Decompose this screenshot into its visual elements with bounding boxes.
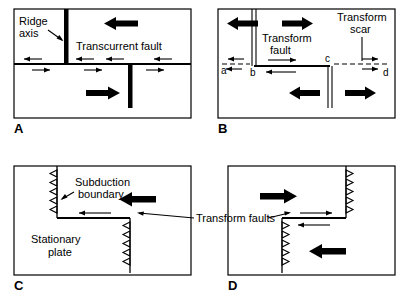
panel-c-stationary-plate-label-line2: plate (48, 246, 72, 258)
panel-a-ridge-axis-label-line1: Ridge (19, 15, 48, 27)
panel-c: Subduction boundary Stationary plate C (14, 166, 191, 293)
plate-tectonics-diagram: Ridge axis Transcurrent fault A (0, 0, 408, 303)
panel-b-point-label-c: c (325, 53, 330, 64)
panel-b: a b c d Transform fault Transform scar B (218, 9, 395, 136)
panel-d-id: D (228, 278, 237, 293)
panel-b-transform-fault-label-line1: Transform (262, 32, 312, 44)
transform-faults-label: Transform faults (196, 212, 276, 224)
panel-a-transcurrent-fault-label: Transcurrent fault (76, 40, 162, 52)
panel-a-ridge-axis-upper (64, 9, 69, 64)
panel-a: Ridge axis Transcurrent fault A (14, 9, 191, 136)
panel-c-subduction-boundary-label-line2: boundary (78, 188, 124, 200)
panel-b-point-label-a: a (221, 65, 227, 76)
panel-c-stationary-plate-label-line1: Stationary (31, 233, 81, 245)
panel-b-id: B (218, 121, 227, 136)
panel-b-transform-scar-label-line2: scar (350, 23, 371, 35)
figure-container: Ridge axis Transcurrent fault A (0, 0, 408, 303)
panel-b-transform-scar-label-line1: Transform (337, 11, 387, 23)
panel-b-point-label-b: b (250, 67, 256, 78)
panel-a-ridge-axis-lower (128, 64, 133, 108)
panel-b-transform-fault-label-line2: fault (270, 44, 291, 56)
panel-b-point-label-d: d (383, 67, 389, 78)
panel-c-id: C (14, 278, 24, 293)
panel-c-subduction-boundary-label-line1: Subduction (75, 176, 130, 188)
panel-a-ridge-axis-label-line2: axis (19, 27, 39, 39)
panel-d: D (228, 166, 395, 293)
panel-a-id: A (14, 121, 24, 136)
